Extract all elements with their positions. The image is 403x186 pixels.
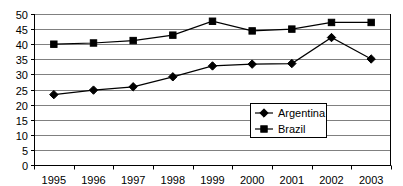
x-tick-label-2002: 2002 [319, 174, 343, 186]
y-tick-label-10: 10 [16, 130, 28, 142]
y-tick-label-15: 15 [16, 115, 28, 127]
data-point-argentina-1999 [208, 62, 216, 70]
y-tick-label-50: 50 [16, 9, 28, 21]
data-point-argentina-2001 [288, 59, 296, 67]
chart-legend: ArgentinaBrazil [251, 104, 327, 138]
x-tick-label-1995: 1995 [42, 174, 66, 186]
x-tick-label-2003: 2003 [359, 174, 383, 186]
chart-canvas: 05101520253035404550 1995199619971998199… [0, 0, 403, 186]
data-point-argentina-2003 [367, 55, 375, 63]
series-brazil [51, 18, 375, 47]
y-tick-label-5: 5 [22, 145, 28, 157]
data-point-brazil-1999 [209, 18, 215, 24]
data-point-argentina-2002 [327, 33, 335, 41]
y-tick-label-45: 45 [16, 24, 28, 36]
x-tick-label-1999: 1999 [200, 174, 224, 186]
data-point-brazil-2001 [289, 26, 295, 32]
line-chart: 05101520253035404550 1995199619971998199… [0, 0, 403, 186]
legend-marker-brazil [261, 126, 267, 132]
x-axis-tick-labels: 199519961997199819992000200120022003 [42, 174, 384, 186]
plot-frame [34, 14, 391, 166]
legend-label-argentina: Argentina [278, 107, 326, 119]
data-point-brazil-2002 [328, 19, 334, 25]
data-point-argentina-1996 [89, 86, 97, 94]
data-point-brazil-1998 [170, 32, 176, 38]
data-point-brazil-1996 [90, 40, 96, 46]
chart-plot-area: 05101520253035404550 1995199619971998199… [0, 0, 403, 186]
y-tick-label-35: 35 [16, 54, 28, 66]
y-tick-label-20: 20 [16, 100, 28, 112]
legend-label-brazil: Brazil [278, 123, 306, 135]
grid-lines [34, 15, 391, 166]
y-axis-tick-marks [31, 15, 34, 166]
data-point-argentina-2000 [248, 60, 256, 68]
data-point-argentina-1997 [129, 83, 137, 91]
data-point-brazil-1995 [51, 41, 57, 47]
data-series-layer [50, 18, 376, 99]
y-tick-label-25: 25 [16, 85, 28, 97]
x-tick-label-1998: 1998 [161, 174, 185, 186]
y-axis-tick-labels: 05101520253035404550 [16, 9, 28, 172]
y-tick-label-30: 30 [16, 69, 28, 81]
data-point-brazil-1997 [130, 37, 136, 43]
x-tick-label-2000: 2000 [240, 174, 264, 186]
y-tick-label-40: 40 [16, 39, 28, 51]
x-tick-label-2001: 2001 [280, 174, 304, 186]
x-axis-tick-marks [35, 166, 392, 170]
data-point-argentina-1995 [50, 90, 58, 98]
x-tick-label-1996: 1996 [81, 174, 105, 186]
x-tick-label-1997: 1997 [121, 174, 145, 186]
y-tick-label-0: 0 [22, 160, 28, 172]
data-point-brazil-2000 [249, 28, 255, 34]
data-point-brazil-2003 [368, 19, 374, 25]
data-point-argentina-1998 [169, 73, 177, 81]
